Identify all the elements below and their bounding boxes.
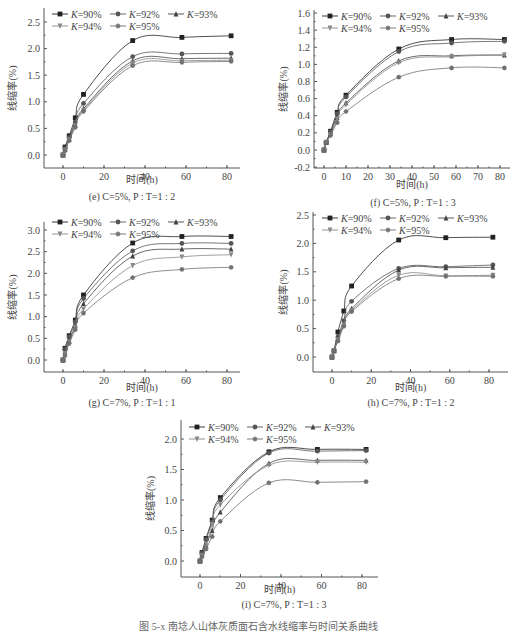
figure-caption: 图 5-x 南埝人山体灰质面石含水线缩率与时间关系曲线 [0,618,517,633]
data-point-marker [210,534,215,539]
y-tick-label: 1.0 [165,495,178,506]
x-tick-label: 60 [317,580,327,591]
legend: K=90%K=92%K=93%K=94%K=95% [189,422,355,445]
series-line [200,449,366,561]
data-point-marker [218,498,223,503]
legend-label: K=90% [207,422,239,433]
legend-marker-icon [253,425,258,430]
data-point-marker [267,451,272,456]
series-line [200,458,366,561]
legend-label: K=93% [323,422,355,433]
legend-label: K=94% [207,434,239,445]
data-point-marker [315,449,320,454]
legend-marker-icon [195,425,200,430]
y-tick-label: 2.0 [165,434,178,445]
series-line [200,461,366,561]
legend-marker-icon [253,437,258,442]
y-tick-label: 0.0 [165,556,178,567]
x-tick-label: 0 [198,580,203,591]
x-tick-label: 20 [236,580,246,591]
x-tick-label: 80 [357,580,367,591]
data-point-marker [364,448,369,453]
legend-label: K=95% [265,434,297,445]
data-point-marker [267,481,272,486]
legend-label: K=92% [265,422,297,433]
x-axis-label: 时间(h) [264,583,296,596]
series-group [198,447,369,564]
axes: 0.00.51.01.52.0020406080时间(h)线缩率(%) [144,420,378,596]
data-point-marker [315,480,320,485]
y-tick-label: 0.5 [165,525,178,536]
data-point-marker [364,479,369,484]
chart-caption-i: (i) C=7%, P : T=1 : 3 [214,599,354,610]
y-axis-label: 线缩率(%) [144,476,157,521]
series-line [200,447,366,561]
data-point-marker [198,559,203,564]
y-tick-label: 1.5 [165,464,178,475]
data-point-marker [200,554,205,559]
data-point-marker [218,519,223,524]
